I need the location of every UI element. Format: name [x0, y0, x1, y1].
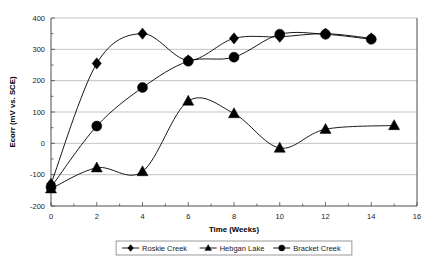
legend-label-roskie-creek: Roskie Creek [142, 244, 187, 253]
y-tick-label-100: 100 [32, 108, 45, 117]
legend-marker-bracket-creek [279, 245, 285, 251]
datapoint-bracket-creek-4 [138, 83, 148, 93]
x-tick-label-12: 12 [321, 212, 329, 221]
datapoint-hebgan-lake-15 [389, 120, 400, 130]
x-axis-title: Time (Weeks) [209, 225, 259, 234]
datapoint-bracket-creek-14 [366, 34, 376, 44]
datapoint-bracket-creek-0 [46, 182, 56, 192]
chart-container: -200-1000100200300400 0246810121416 Ecor… [0, 0, 437, 264]
x-tick-label-6: 6 [186, 212, 190, 221]
datapoint-bracket-creek-10 [275, 29, 285, 39]
series-line-bracket-creek [51, 32, 371, 187]
datapoint-roskie-creek-4 [138, 28, 147, 39]
datapoint-hebgan-lake-6 [183, 95, 194, 105]
y-tick-label-0: 0 [41, 139, 45, 148]
x-tick-label-10: 10 [276, 212, 284, 221]
x-tick-label-4: 4 [140, 212, 144, 221]
x-tick-label-2: 2 [95, 212, 99, 221]
datapoint-bracket-creek-6 [183, 56, 193, 66]
y-axis-title: Ecorr (mV vs. SCE) [8, 76, 17, 147]
legend-label-bracket-creek: Bracket Creek [293, 244, 341, 253]
x-tick-label-16: 16 [413, 212, 421, 221]
series-lines-group [51, 32, 394, 188]
datapoint-roskie-creek-8 [229, 33, 238, 44]
y-tick-labels-group: -200-1000100200300400 [30, 14, 45, 211]
datapoint-hebgan-lake-2 [91, 162, 102, 172]
y-tick-label--100: -100 [30, 170, 45, 179]
y-tick-label-300: 300 [32, 45, 45, 54]
legend: Roskie CreekHebgan LakeBracket Creek [116, 241, 352, 255]
series-markers-group [45, 28, 399, 193]
line-chart: -200-1000100200300400 0246810121416 Ecor… [0, 0, 437, 264]
legend-label-hebgan-lake: Hebgan Lake [220, 244, 265, 253]
y-tick-label-400: 400 [32, 14, 45, 23]
datapoint-hebgan-lake-4 [137, 166, 148, 176]
datapoint-bracket-creek-12 [321, 29, 331, 39]
y-tick-label-200: 200 [32, 76, 45, 85]
datapoint-bracket-creek-2 [92, 121, 102, 131]
datapoint-bracket-creek-8 [229, 52, 239, 62]
series-line-roskie-creek [51, 34, 371, 184]
datapoint-hebgan-lake-8 [228, 108, 239, 118]
x-tick-label-14: 14 [367, 212, 375, 221]
y-tick-label--200: -200 [30, 202, 45, 211]
x-tick-labels-group: 0246810121416 [49, 212, 421, 221]
x-tick-label-8: 8 [232, 212, 236, 221]
datapoint-roskie-creek-2 [92, 58, 101, 69]
x-tick-label-0: 0 [49, 212, 53, 221]
